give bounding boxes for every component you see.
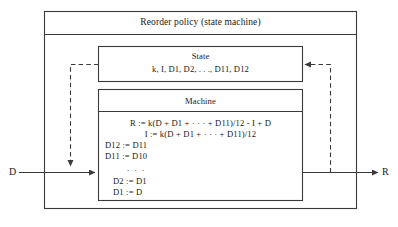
- machine-equation-ellipsis: . . .: [127, 164, 146, 173]
- output-to-state-dashed-path: [305, 65, 331, 173]
- machine-equation-line: D2 := D1: [113, 177, 147, 186]
- machine-equation-line: R := k(D + D1 + · · · + D11)/12 - I + D: [98, 119, 303, 128]
- machine-equation-line: D12 := D11: [105, 141, 147, 150]
- output-label-r: R: [382, 167, 389, 177]
- outer-box-outline: [45, 12, 357, 209]
- state-box-title: State: [98, 52, 303, 61]
- machine-box-title: Machine: [98, 97, 303, 106]
- state-box-variables: k, I, D1, D2, . . ., D11, D12: [98, 65, 303, 74]
- diagram-lines-layer: [0, 0, 398, 227]
- reorder-policy-diagram: Reorder policy (state machine) State k, …: [0, 0, 398, 227]
- machine-equation-line: I := k(D + D1 + · · · + D11)/12: [98, 130, 303, 139]
- machine-equation-line: D11 := D10: [105, 152, 147, 161]
- state-to-input-dashed-path: [71, 65, 99, 167]
- machine-equation-line: D1 := D: [113, 188, 142, 197]
- outer-box-title: Reorder policy (state machine): [44, 18, 357, 28]
- input-label-d: D: [9, 167, 16, 177]
